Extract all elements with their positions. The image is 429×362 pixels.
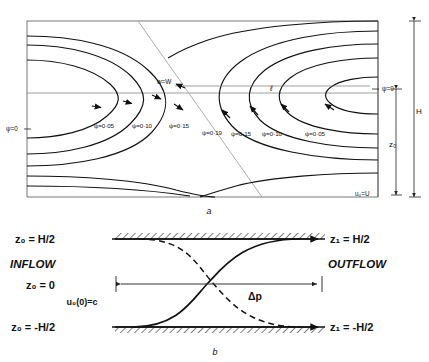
contour-label-right-1: ψ=0·10 bbox=[262, 130, 282, 137]
flow-arrows-right bbox=[222, 104, 334, 118]
z0-mid-label: z₀ = 0 bbox=[26, 279, 55, 291]
panel-a-caption: a bbox=[206, 206, 211, 216]
streamline-dashed-crossing bbox=[139, 239, 300, 327]
streamlines-left-cell bbox=[27, 36, 215, 197]
streamline-solid-crossing bbox=[133, 239, 300, 327]
z0-top-label: z₀ = H/2 bbox=[15, 233, 55, 245]
streamlines-right-cell bbox=[168, 21, 378, 197]
panel-b: Δp z₀ = H/2 INFLOW z₀ = 0 u₀(0)=c z₀ = -… bbox=[10, 233, 387, 357]
contour-label-left-2: ψ=0·15 bbox=[169, 122, 189, 129]
streamline-right-top bbox=[168, 21, 378, 58]
z0-bottom-label: z₀ = -H/2 bbox=[11, 321, 55, 333]
pressure-dimension-group: Δp bbox=[116, 276, 322, 302]
contour-label-left-1: ψ=0·10 bbox=[132, 122, 152, 129]
z0-dimension-label: z₀ bbox=[389, 140, 396, 149]
panel-a: w=W ℓ ψ=0 ψ=0 ψ=0·05 ψ=0·10 ψ=0·15 ψ=0·1… bbox=[6, 21, 422, 216]
top-wall-hatch bbox=[115, 233, 325, 239]
velocity-label: w=W bbox=[156, 78, 172, 85]
contour-label-left-0: ψ=0·05 bbox=[94, 122, 114, 129]
z1-top-label: z₁ = H/2 bbox=[330, 233, 370, 245]
contour-label-right-0: ψ=0·15 bbox=[231, 130, 251, 137]
contour-label-right-2: ψ=0·05 bbox=[305, 130, 325, 137]
figure-container: w=W ℓ ψ=0 ψ=0 ψ=0·05 ψ=0·10 ψ=0·15 ψ=0·1… bbox=[0, 0, 429, 362]
dimension-markers: H z₀ bbox=[389, 21, 422, 197]
streamline-right-core bbox=[326, 77, 378, 114]
contour-label-left-3: ψ=0·19 bbox=[202, 129, 222, 136]
H-dimension-label: H bbox=[416, 107, 422, 116]
contour-labels-right: ψ=0·15 ψ=0·10 ψ=0·05 bbox=[231, 130, 325, 137]
streamline-right-bottom bbox=[200, 173, 378, 197]
pressure-drop-label: Δp bbox=[248, 290, 262, 302]
streamline-right-inner bbox=[279, 58, 378, 134]
z1-bottom-label: z₁ = -H/2 bbox=[330, 321, 373, 333]
diagonal-reference-line bbox=[138, 21, 262, 197]
bottom-wall-hatch bbox=[115, 327, 325, 333]
inlet-velocity-label: u₀(0)=c bbox=[67, 297, 98, 307]
outflow-label: OUTFLOW bbox=[328, 258, 387, 270]
bottom-velocity-label: u₀=U bbox=[355, 190, 370, 197]
panel-b-caption: b bbox=[212, 347, 217, 357]
flow-arrows-left bbox=[92, 95, 183, 110]
length-scale-label: ℓ bbox=[269, 84, 273, 93]
psi-zero-left-label: ψ=0 bbox=[6, 125, 18, 133]
streamline-right-outer bbox=[219, 31, 378, 160]
inflow-label: INFLOW bbox=[10, 258, 56, 270]
